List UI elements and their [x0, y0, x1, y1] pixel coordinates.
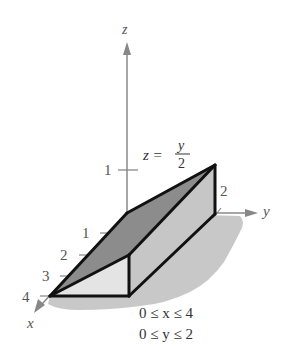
x-tick-label-1: 1 — [82, 225, 90, 241]
equation-numerator: y — [176, 138, 185, 153]
x-tick-label-2: 2 — [60, 247, 68, 263]
surface-equation: z = y 2 — [142, 138, 190, 171]
z-axis-label: z — [121, 22, 128, 37]
z-axis-arrow-icon — [123, 42, 131, 55]
y-tick-label-2: 2 — [220, 183, 228, 199]
x-tick-label-3: 3 — [42, 268, 50, 284]
x-tick-label-4: 4 — [22, 289, 30, 305]
x-axis-label: x — [26, 315, 34, 331]
z-tick-label-1: 1 — [104, 162, 112, 178]
y-axis-arrow-icon — [245, 209, 258, 217]
equation-denominator: 2 — [178, 156, 185, 171]
x-axis-arrow-icon — [34, 299, 45, 313]
y-axis-label: y — [261, 203, 270, 219]
wedge-diagram: z y x 1 2 1 2 3 4 z = y 2 0 ≤ x ≤ 4 0 ≤ … — [0, 0, 290, 361]
constraint-y: 0 ≤ y ≤ 2 — [139, 326, 193, 342]
equation-lhs: z = — [142, 147, 163, 163]
constraint-x: 0 ≤ x ≤ 4 — [139, 305, 193, 321]
